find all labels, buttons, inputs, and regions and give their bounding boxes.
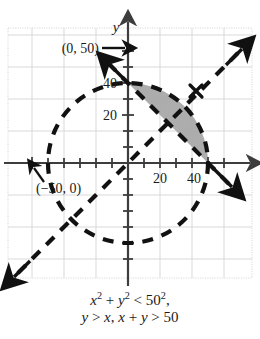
y-tick-label-40: 40 [103,76,117,91]
plot-frame [8,28,252,278]
caption-var-y3: y [141,309,148,325]
caption-var-y1: y [118,292,125,308]
y-axis-label: y [111,19,120,35]
caption-op-gt-1: > [88,309,104,325]
coordinate-plane: y 40 20 20 40 (0, 50) (−50, 0) [0,0,260,339]
caption-op-lt: < 50 [130,292,161,308]
caption-var-x3: x [118,309,125,325]
caption-op-plus-2: + [125,309,141,325]
y-tick-label-20: 20 [103,108,117,123]
caption-line-1: x2 + y2 < 502, [0,290,260,309]
x-tick-label-20: 20 [153,171,167,186]
caption-op-gt-2: > 50 [148,309,179,325]
point-label-0-50: (0, 50) [62,41,100,57]
caption-comma-1: , [166,292,170,308]
caption-var-x1: x [90,292,97,308]
point-label-neg50-0: (−50, 0) [36,181,82,197]
inequality-system-graph-figure: y 40 20 20 40 (0, 50) (−50, 0) x2 + y2 <… [0,0,260,339]
caption-op-plus-1: + [102,292,118,308]
caption-var-x2: x [104,309,111,325]
x-tick-label-40: 40 [187,171,201,186]
caption-line-2: y > x, x + y > 50 [0,309,260,326]
